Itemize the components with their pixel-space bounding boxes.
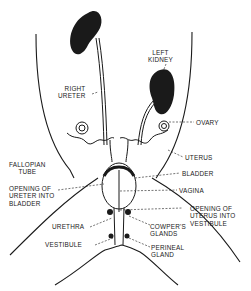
- ovary-right-shape: [159, 121, 169, 131]
- urethra-tube: [114, 208, 124, 245]
- leader-opening-ureter: [58, 184, 104, 190]
- label-uterus: UTERUS: [185, 154, 212, 161]
- label-vagina: VAGINA: [179, 187, 204, 194]
- leader-cowpers: [129, 216, 150, 225]
- cowpers-gland-left: [107, 209, 113, 215]
- leader-bladder: [135, 173, 180, 178]
- body-outline-left: [36, 34, 74, 178]
- label-left-kidney: LEFT KIDNEY: [148, 49, 173, 64]
- ovary-right-inner: [162, 124, 167, 129]
- perineal-gland-right: [125, 234, 130, 239]
- diagram-drawing: [0, 0, 251, 291]
- label-right-ureter: RIGHT URETER: [58, 85, 85, 100]
- leader-vestibule: [95, 238, 113, 245]
- uterus-body: [110, 140, 128, 162]
- label-opening-uterus: OPENING OF UTERUS INTO VESTIBULE: [190, 205, 235, 227]
- label-urethra: URETHRA: [52, 223, 84, 230]
- left-ureter-line2: [141, 102, 156, 145]
- leader-urethra: [90, 218, 112, 227]
- perineal-gland-left: [109, 234, 114, 239]
- ovary-left-inner: [79, 125, 85, 131]
- leader-vagina: [120, 190, 177, 191]
- label-bladder: BLADDER: [182, 170, 214, 177]
- right-kidney-shape: [70, 11, 101, 54]
- label-ovary: OVARY: [196, 119, 219, 126]
- right-ureter-line: [96, 38, 104, 145]
- label-vestibule: VESTIBULE: [45, 241, 82, 248]
- label-opening-ureter: OPENING OF URETER INTO BLADDER: [9, 185, 54, 207]
- fallopian-tube-right: [120, 130, 168, 143]
- ovary-left-shape: [76, 122, 88, 134]
- label-cowpers-glands: COWPER'S GLANDS: [150, 223, 186, 238]
- label-fallopian-tube: FALLOPIAN TUBE: [9, 161, 46, 176]
- label-perineal-gland: PERINEAL GLAND: [151, 244, 184, 259]
- leader-right-ureter: [92, 92, 98, 94]
- left-kidney-shape: [150, 69, 175, 114]
- leader-perineal: [129, 238, 150, 247]
